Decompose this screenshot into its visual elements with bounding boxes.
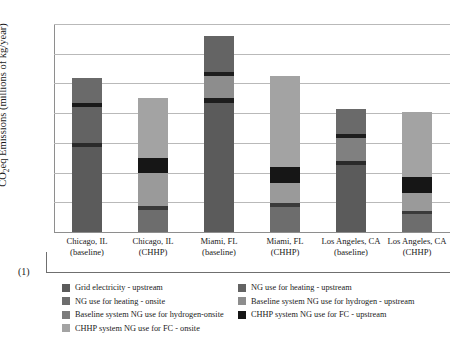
y-axis-label-text: CO2eq Emissions (millions of kg/year)	[0, 23, 11, 187]
bar-1-segment-3	[138, 158, 168, 173]
bar-2[interactable]	[204, 36, 234, 232]
legend-item-6[interactable]: CHHP system NG use for FC - upstream	[238, 310, 386, 319]
bar-2-segment-0	[204, 103, 234, 232]
bar-3-segment-4	[270, 76, 300, 167]
legend: Grid electricity - upstreamNG use for he…	[62, 283, 447, 341]
bar-3-segment-3	[270, 167, 300, 183]
bar-5-segment-3	[402, 177, 432, 193]
legend-label-3: CHHP system NG use for FC - onsite	[75, 324, 200, 333]
x-axis-line	[54, 232, 450, 233]
bar-1-segment-2	[138, 173, 168, 207]
bar-5-segment-0	[402, 214, 432, 232]
gridline-5	[54, 83, 450, 84]
gridline-6	[54, 54, 450, 55]
x-tick-label-1: Chicago, IL(CHHP)	[116, 236, 190, 257]
bar-4-segment-2	[336, 138, 366, 160]
legend-swatch-1	[62, 297, 70, 305]
legend-item-2[interactable]: Baseline system NG use for hydrogen-onsi…	[62, 310, 224, 319]
bar-2-segment-4	[204, 36, 234, 72]
bar-2-segment-2	[204, 76, 234, 98]
legend-label-0: Grid electricity - upstream	[75, 283, 163, 292]
bar-4-segment-3	[336, 134, 366, 138]
bar-1-segment-1	[138, 206, 168, 210]
chart-frame-left	[46, 252, 47, 273]
bar-1[interactable]	[138, 98, 168, 232]
legend-swatch-3	[62, 324, 70, 332]
bar-3-segment-0	[270, 207, 300, 232]
bar-4-segment-1	[336, 161, 366, 165]
bar-3-segment-2	[270, 183, 300, 203]
x-tick-label-5-line2: (CHHP)	[380, 247, 454, 258]
x-tick-label-5-line1: Los Angeles, CA	[380, 236, 454, 247]
x-tick-label-4: Los Angeles, CA(baseline)	[314, 236, 388, 257]
gridline-3	[54, 143, 450, 144]
x-tick-label-3-line1: Miami, FL	[248, 236, 322, 247]
plot-area: 7654321–	[54, 24, 450, 233]
legend-label-2: Baseline system NG use for hydrogen-onsi…	[75, 310, 224, 319]
bar-4[interactable]	[336, 109, 366, 232]
bar-2-segment-1	[204, 98, 234, 102]
legend-label-6: CHHP system NG use for FC - upstream	[251, 310, 386, 319]
x-tick-label-0-line2: (baseline)	[50, 247, 124, 258]
x-tick-label-4-line2: (baseline)	[314, 247, 388, 258]
bar-0-segment-2	[72, 107, 102, 143]
bar-5-segment-2	[402, 193, 432, 210]
x-axis-tick-labels: Chicago, IL(baseline)Chicago, IL(CHHP)Mi…	[54, 236, 450, 262]
bar-0-segment-3	[72, 103, 102, 107]
bar-0[interactable]	[72, 78, 102, 232]
x-tick-label-2-line2: (baseline)	[182, 247, 256, 258]
legend-swatch-0	[62, 284, 70, 292]
gridline-1	[54, 202, 450, 203]
bar-5-segment-4	[402, 112, 432, 177]
legend-label-4: NG use for heating - upstream	[251, 283, 352, 292]
bar-4-segment-0	[336, 165, 366, 232]
x-tick-label-1-line2: (CHHP)	[116, 247, 190, 258]
gridline-2	[54, 173, 450, 174]
x-tick-label-2: Miami, FL(baseline)	[182, 236, 256, 257]
bar-5[interactable]	[402, 112, 432, 232]
bar-3[interactable]	[270, 76, 300, 232]
legend-item-4[interactable]: NG use for heating - upstream	[238, 283, 352, 292]
bar-0-segment-4	[72, 78, 102, 102]
legend-label-5: Baseline system NG use for hydrogen - up…	[251, 297, 414, 306]
legend-item-5[interactable]: Baseline system NG use for hydrogen - up…	[238, 297, 414, 306]
plot-canvas: 7654321–	[54, 24, 450, 233]
legend-swatch-5	[238, 297, 246, 305]
legend-swatch-2	[62, 311, 70, 319]
bar-4-segment-4	[336, 109, 366, 134]
x-tick-label-0: Chicago, IL(baseline)	[50, 236, 124, 257]
figure-note: (1)	[18, 266, 30, 277]
legend-swatch-6	[238, 311, 246, 319]
x-tick-label-3-line2: (CHHP)	[248, 247, 322, 258]
bar-3-segment-1	[270, 203, 300, 207]
gridline-7	[54, 24, 450, 25]
gridline-4	[54, 113, 450, 114]
chart-bottom-rule	[46, 272, 450, 273]
x-tick-label-1-line1: Chicago, IL	[116, 236, 190, 247]
bar-0-segment-0	[72, 147, 102, 232]
bar-1-segment-0	[138, 210, 168, 232]
legend-label-1: NG use for heating - onsite	[75, 297, 165, 306]
x-tick-label-2-line1: Miami, FL	[182, 236, 256, 247]
bar-1-segment-4	[138, 98, 168, 157]
bar-5-segment-1	[402, 211, 432, 215]
bar-0-segment-1	[72, 143, 102, 147]
x-tick-label-4-line1: Los Angeles, CA	[314, 236, 388, 247]
legend-item-0[interactable]: Grid electricity - upstream	[62, 283, 163, 292]
x-tick-label-3: Miami, FL(CHHP)	[248, 236, 322, 257]
y-axis-label: CO2eq Emissions (millions of kg/year)	[0, 0, 12, 209]
x-tick-label-0-line1: Chicago, IL	[50, 236, 124, 247]
legend-item-3[interactable]: CHHP system NG use for FC - onsite	[62, 324, 200, 333]
bar-2-segment-3	[204, 72, 234, 76]
legend-item-1[interactable]: NG use for heating - onsite	[62, 297, 165, 306]
figure-root: CO2eq Emissions (millions of kg/year) 76…	[0, 0, 455, 346]
x-tick-label-5: Los Angeles, CA(CHHP)	[380, 236, 454, 257]
legend-swatch-4	[238, 284, 246, 292]
